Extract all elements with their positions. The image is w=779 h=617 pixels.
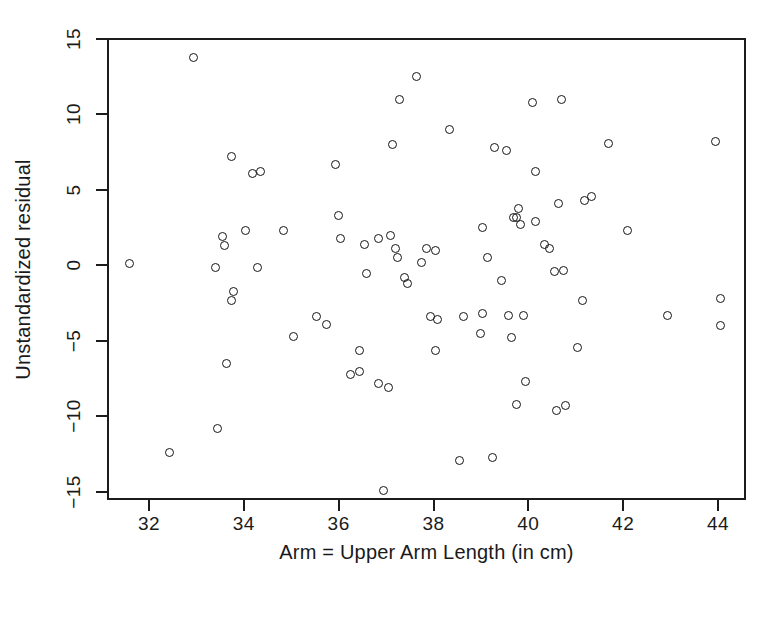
- data-point: [531, 167, 540, 176]
- data-point: [483, 253, 492, 262]
- data-point: [355, 346, 364, 355]
- x-tick-label-38: 38: [404, 513, 464, 535]
- data-point: [395, 95, 404, 104]
- data-point: [573, 343, 582, 352]
- y-tick--15: [96, 491, 107, 493]
- data-point: [218, 232, 227, 241]
- x-axis-label: Arm = Upper Arm Length (in cm): [107, 541, 746, 564]
- data-point: [516, 220, 525, 229]
- data-point: [490, 143, 499, 152]
- data-point: [336, 234, 345, 243]
- data-point: [445, 125, 454, 134]
- data-point: [476, 329, 485, 338]
- data-point: [587, 192, 596, 201]
- x-tick-label-44: 44: [688, 513, 748, 535]
- x-tick-44: [717, 500, 719, 511]
- data-point: [559, 266, 568, 275]
- x-tick-38: [433, 500, 435, 511]
- y-tick--5: [96, 340, 107, 342]
- data-point: [355, 367, 364, 376]
- data-point: [497, 276, 506, 285]
- y-tick--10: [96, 415, 107, 417]
- data-point: [561, 401, 570, 410]
- data-point: [229, 287, 238, 296]
- x-tick-40: [527, 500, 529, 511]
- data-point: [360, 240, 369, 249]
- data-point: [386, 231, 395, 240]
- data-point: [253, 263, 262, 272]
- x-tick-34: [243, 500, 245, 511]
- scatter-plot-figure: Unstandardized residual 151050−5−10−15 3…: [0, 0, 779, 617]
- x-tick-label-34: 34: [214, 513, 274, 535]
- data-point: [455, 456, 464, 465]
- data-point: [502, 146, 511, 155]
- data-point: [331, 160, 340, 169]
- data-point: [125, 259, 134, 268]
- data-point: [554, 199, 563, 208]
- data-point: [393, 253, 402, 262]
- data-point: [478, 309, 487, 318]
- data-point: [431, 246, 440, 255]
- data-point: [431, 346, 440, 355]
- data-point: [716, 321, 725, 330]
- data-point: [279, 226, 288, 235]
- data-point: [663, 311, 672, 320]
- data-point: [412, 72, 421, 81]
- data-point: [165, 448, 174, 457]
- data-point: [227, 296, 236, 305]
- y-tick-label-10: 10: [52, 84, 96, 144]
- x-tick-label-42: 42: [593, 513, 653, 535]
- plot-area: [107, 38, 746, 500]
- data-point: [322, 320, 331, 329]
- y-tick-label--15: −15: [52, 462, 96, 522]
- data-point: [213, 424, 222, 433]
- y-tick-0: [96, 264, 107, 266]
- y-tick-label--5: −5: [52, 311, 96, 371]
- data-point: [552, 406, 561, 415]
- y-tick-label--10: −10: [52, 386, 96, 446]
- y-tick-label-0: 0: [52, 235, 96, 295]
- y-axis-label: Unstandardized residual: [12, 159, 35, 379]
- data-point: [519, 311, 528, 320]
- data-point: [507, 333, 516, 342]
- data-point: [334, 211, 343, 220]
- x-tick-42: [622, 500, 624, 511]
- data-point: [417, 258, 426, 267]
- data-points-layer: [109, 40, 744, 498]
- y-tick-15: [96, 38, 107, 40]
- data-point: [578, 296, 587, 305]
- data-point: [391, 244, 400, 253]
- data-point: [512, 400, 521, 409]
- data-point: [521, 377, 530, 386]
- data-point: [227, 152, 236, 161]
- data-point: [374, 234, 383, 243]
- data-point: [384, 383, 393, 392]
- y-axis-label-container: Unstandardized residual: [0, 38, 46, 500]
- data-point: [550, 267, 559, 276]
- data-point: [623, 226, 632, 235]
- y-tick-label-15: 15: [52, 9, 96, 69]
- data-point: [528, 98, 537, 107]
- data-point: [604, 139, 613, 148]
- y-tick-label-5: 5: [52, 160, 96, 220]
- data-point: [403, 279, 412, 288]
- data-point: [362, 269, 371, 278]
- data-point: [241, 226, 250, 235]
- x-tick-label-36: 36: [309, 513, 369, 535]
- data-point: [711, 137, 720, 146]
- data-point: [374, 379, 383, 388]
- data-point: [459, 312, 468, 321]
- data-point: [422, 244, 431, 253]
- data-point: [256, 167, 265, 176]
- x-tick-32: [148, 500, 150, 511]
- data-point: [379, 486, 388, 495]
- data-point: [312, 312, 321, 321]
- data-point: [488, 453, 497, 462]
- data-point: [716, 294, 725, 303]
- y-tick-5: [96, 189, 107, 191]
- x-tick-36: [338, 500, 340, 511]
- data-point: [545, 244, 554, 253]
- data-point: [388, 140, 397, 149]
- x-tick-label-32: 32: [119, 513, 179, 535]
- x-tick-label-40: 40: [498, 513, 558, 535]
